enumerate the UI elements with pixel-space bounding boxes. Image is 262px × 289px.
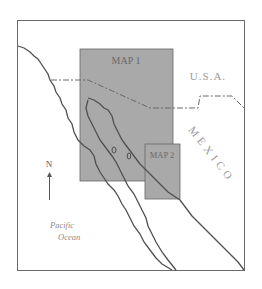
ocean-label-line2: Ocean xyxy=(58,232,80,242)
country-label-usa: U.S.A. xyxy=(190,70,226,82)
inset-map2-label: MAP 2 xyxy=(150,150,174,160)
ocean-label-line1: Pacific xyxy=(49,220,74,230)
locator-map: MAP 1 MAP 2 U.S.A. MEXICO Pacific Ocean … xyxy=(0,0,262,289)
north-arrow-label: N xyxy=(46,159,53,169)
inset-map1-label: MAP 1 xyxy=(112,55,141,66)
